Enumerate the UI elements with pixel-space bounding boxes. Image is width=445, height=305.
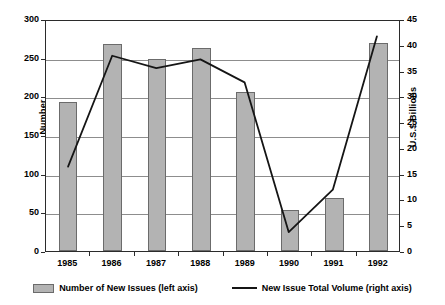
- x-axis-tick: 1990: [264, 258, 314, 268]
- right-axis-tick: 10: [407, 194, 417, 204]
- right-axis-tick: 5: [407, 220, 412, 230]
- right-axis-tick: 15: [407, 169, 417, 179]
- x-axis-tick: 1988: [175, 258, 225, 268]
- plot-area: [45, 20, 400, 252]
- x-axis-tick: 1985: [42, 258, 92, 268]
- right-axis-tick-mark: [400, 252, 404, 253]
- right-axis-tick-mark: [400, 149, 404, 150]
- volume-line-path: [68, 36, 377, 232]
- legend-item-bars: Number of New Issues (left axis): [33, 283, 198, 293]
- left-axis-tick: 0: [34, 246, 39, 256]
- right-axis-tick-mark: [400, 175, 404, 176]
- x-axis-tick-mark: [356, 252, 357, 256]
- right-axis-tick-mark: [400, 20, 404, 21]
- left-axis-tick: 50: [29, 207, 39, 217]
- chart-figure: Number U.S.$ Billions 050100150200250300…: [0, 0, 445, 305]
- right-axis-tick-mark: [400, 72, 404, 73]
- x-axis-tick-mark: [89, 252, 90, 256]
- right-axis-tick: 45: [407, 14, 417, 24]
- right-axis-tick: 0: [407, 246, 412, 256]
- x-axis-tick: 1989: [220, 258, 270, 268]
- x-axis-tick: 1992: [353, 258, 403, 268]
- chart-legend: Number of New Issues (left axis) New Iss…: [0, 277, 445, 299]
- left-axis-tick-mark: [41, 252, 45, 253]
- x-axis-tick-mark: [223, 252, 224, 256]
- right-axis-tick-mark: [400, 200, 404, 201]
- left-axis-tick: 250: [24, 53, 39, 63]
- right-axis-tick-mark: [400, 123, 404, 124]
- line-series: [46, 21, 399, 251]
- legend-label-line: New Issue Total Volume (right axis): [262, 283, 412, 293]
- x-axis-tick-mark: [267, 252, 268, 256]
- right-axis-tick: 20: [407, 143, 417, 153]
- line-swatch-icon: [232, 287, 257, 289]
- legend-item-line: New Issue Total Volume (right axis): [232, 283, 412, 293]
- left-axis-tick: 300: [24, 14, 39, 24]
- bar-swatch-icon: [33, 284, 54, 293]
- left-axis-tick: 150: [24, 130, 39, 140]
- right-axis-tick-mark: [400, 226, 404, 227]
- left-axis-tick: 200: [24, 91, 39, 101]
- x-axis-tick-mark: [311, 252, 312, 256]
- right-axis-tick: 25: [407, 117, 417, 127]
- x-axis-tick: 1991: [308, 258, 358, 268]
- left-axis-tick: 100: [24, 169, 39, 179]
- right-axis-tick-mark: [400, 46, 404, 47]
- x-axis-tick: 1987: [131, 258, 181, 268]
- right-axis-tick: 30: [407, 91, 417, 101]
- legend-label-bars: Number of New Issues (left axis): [59, 283, 198, 293]
- right-axis-tick: 40: [407, 40, 417, 50]
- x-axis-tick-mark: [178, 252, 179, 256]
- x-axis-tick-mark: [134, 252, 135, 256]
- x-axis-tick: 1986: [87, 258, 137, 268]
- right-axis-tick: 35: [407, 66, 417, 76]
- right-axis-tick-mark: [400, 97, 404, 98]
